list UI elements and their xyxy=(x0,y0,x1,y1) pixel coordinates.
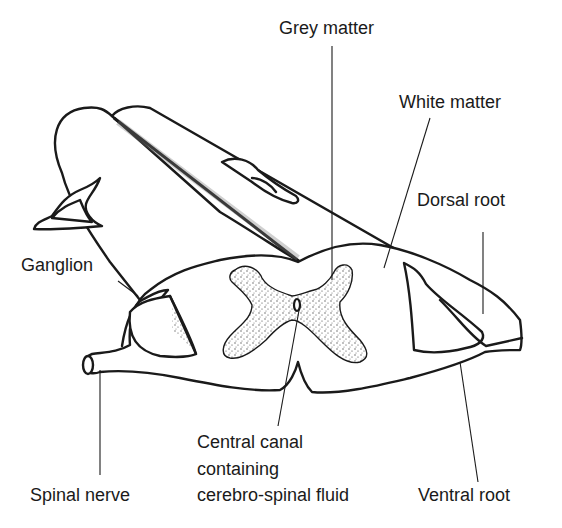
label-ventral-root: Ventral root xyxy=(418,485,510,506)
label-dorsal-root: Dorsal root xyxy=(417,190,505,211)
label-central-canal-2: containing xyxy=(197,459,279,480)
label-ganglion: Ganglion xyxy=(21,255,93,276)
label-central-canal-1: Central canal xyxy=(197,432,303,453)
label-central-canal-3: cerebro-spinal fluid xyxy=(197,485,349,506)
label-grey-matter: Grey matter xyxy=(279,18,374,39)
spinal-nerve-stub xyxy=(83,356,93,374)
label-spinal-nerve: Spinal nerve xyxy=(30,485,130,506)
label-white-matter: White matter xyxy=(399,92,501,113)
spinal-cord-diagram: Grey matter White matter Dorsal root Gan… xyxy=(0,0,562,528)
